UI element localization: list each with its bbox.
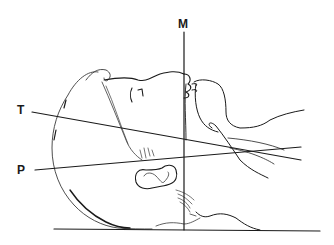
label-m: M bbox=[178, 18, 188, 30]
skull-shading bbox=[70, 190, 130, 228]
skull-outline bbox=[52, 72, 152, 229]
face-profile bbox=[104, 72, 184, 81]
ear-inner bbox=[144, 172, 169, 183]
label-t: T bbox=[17, 104, 24, 116]
t-line bbox=[32, 112, 301, 160]
base-line bbox=[54, 229, 320, 231]
eye bbox=[131, 88, 144, 102]
head-profile-diagram: M T P bbox=[0, 0, 334, 245]
cheek-line bbox=[102, 82, 142, 160]
beard-strands bbox=[176, 190, 194, 212]
ear-outer bbox=[135, 165, 176, 189]
jaw-back bbox=[196, 212, 260, 230]
diagram-canvas bbox=[0, 0, 334, 245]
p-line bbox=[35, 147, 301, 170]
chin-jaw bbox=[194, 80, 304, 128]
label-p: P bbox=[17, 164, 25, 176]
collar bbox=[156, 214, 200, 226]
